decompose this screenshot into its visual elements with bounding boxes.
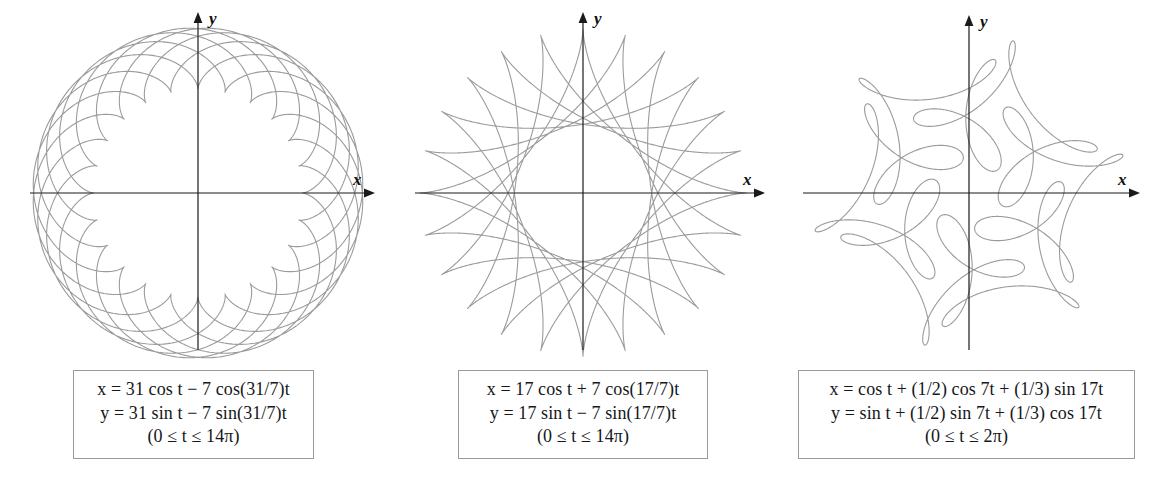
plot-canvas-2: [390, 0, 775, 360]
x-axis-label-1: x: [353, 171, 362, 188]
plot-panel-1: x y: [0, 0, 390, 360]
x-axis-arrowhead-1: [364, 189, 375, 198]
plot-canvas-1: [0, 0, 390, 360]
caption-1-line-range: (0 ≤ t ≤ 14π): [147, 425, 239, 449]
caption-3-line-y: y = sin t + (1/2) sin 7t + (1/3) cos 17t: [831, 402, 1102, 426]
x-axis-label-3: x: [1118, 171, 1127, 188]
equation-caption-box-1: x = 31 cos t − 7 cos(31/7)t y = 31 sin t…: [73, 370, 314, 459]
y-axis-label-1: y: [209, 10, 217, 27]
x-axis-label-2: x: [743, 171, 752, 188]
plot-canvas-3: [775, 0, 1156, 360]
plot-panel-3: x y: [775, 0, 1156, 360]
y-axis-arrowhead-3: [965, 15, 974, 26]
equation-caption-box-3: x = cos t + (1/2) cos 7t + (1/3) sin 17t…: [798, 370, 1135, 459]
caption-3-line-x: x = cos t + (1/2) cos 7t + (1/3) sin 17t: [830, 378, 1104, 402]
caption-1-line-x: x = 31 cos t − 7 cos(31/7)t: [97, 378, 289, 402]
x-axis-arrowhead-2: [754, 189, 765, 198]
x-axis-arrowhead-3: [1129, 189, 1140, 198]
caption-1-line-y: y = 31 sin t − 7 sin(31/7)t: [100, 402, 287, 426]
axes-group-1: [30, 12, 375, 350]
parametric-curves-figure: x y x y: [0, 0, 1156, 480]
y-axis-label-3: y: [980, 13, 988, 30]
axes-group-3: [803, 15, 1140, 350]
caption-2-line-y: y = 17 sin t − 7 sin(17/7)t: [490, 402, 677, 426]
plot-panel-2: x y: [390, 0, 775, 360]
equation-caption-box-2: x = 17 cos t + 7 cos(17/7)t y = 17 sin t…: [458, 370, 708, 459]
caption-2-line-range: (0 ≤ t ≤ 14π): [537, 425, 629, 449]
caption-3-line-range: (0 ≤ t ≤ 2π): [925, 425, 1008, 449]
y-axis-arrowhead-2: [579, 12, 588, 23]
y-axis-label-2: y: [594, 10, 602, 27]
y-axis-arrowhead-1: [194, 12, 203, 23]
caption-2-line-x: x = 17 cos t + 7 cos(17/7)t: [487, 378, 679, 402]
